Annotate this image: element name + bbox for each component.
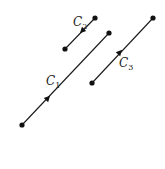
start-point: [92, 15, 97, 20]
start-point: [19, 122, 24, 127]
end-point: [150, 15, 155, 20]
curve-label-main: C: [73, 15, 82, 29]
curve-label: C1: [46, 74, 60, 90]
start-point: [89, 80, 94, 85]
curve-segment: [92, 18, 153, 83]
curve-label: C2: [73, 15, 87, 31]
curve-label-main: C: [46, 74, 55, 88]
curve-label-subscript: 1: [55, 81, 60, 90]
curve-diagram: C1C2C3: [0, 0, 165, 169]
curve-c2: C2: [62, 15, 97, 52]
curve-label-subscript: 2: [82, 22, 87, 31]
curve-label-subscript: 3: [128, 63, 133, 72]
curves-layer: C1C2C3: [19, 15, 155, 128]
curve-label: C3: [119, 56, 133, 72]
end-point: [106, 30, 111, 35]
curve-label-main: C: [119, 56, 128, 70]
curve-c1: C1: [19, 30, 111, 127]
end-point: [62, 46, 67, 51]
curve-c3: C3: [89, 15, 155, 85]
